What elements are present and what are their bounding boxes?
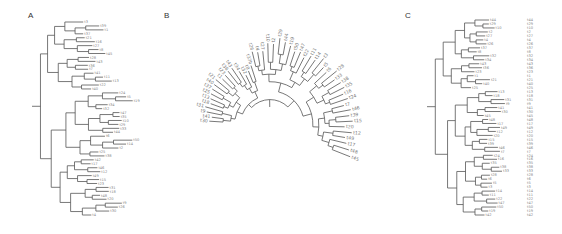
tip-label: t6 (106, 134, 110, 138)
tip-label: t16 (498, 157, 505, 161)
tip-label: t40 (483, 82, 490, 86)
tip-label: t7 (345, 101, 351, 107)
tip-label: t25 (472, 86, 478, 90)
tip-label: t39 (350, 112, 358, 118)
tip-label: t27 (93, 44, 99, 48)
tip-label: t40 (92, 87, 99, 91)
tip-label: t22 (100, 83, 106, 87)
tip-label: t8 (478, 50, 482, 54)
tip-label: t21 (491, 78, 497, 82)
tip-label: t36 (483, 66, 490, 70)
figure-canvas: A B C t3t39t1t37t21t16t27t8t45t28t43t36t… (0, 0, 562, 234)
tip-label: t7 (501, 150, 505, 154)
tip-label: t17 (347, 141, 356, 148)
tip-label: t28 (336, 63, 345, 72)
tip-label: t29 (277, 29, 283, 37)
tip-label: t9 (506, 102, 510, 106)
tip-label: t42 (486, 213, 492, 217)
tip-label: t27 (260, 42, 266, 50)
tip-label: t1 (104, 28, 108, 32)
tip-label: t23 (98, 182, 104, 186)
tip-label: t17 (92, 162, 98, 166)
tip-label: t49 (93, 174, 100, 178)
panel-b-fan-tree: t30t41t9t31t18t13t25t37t40t21t1t23t36t43… (196, 29, 362, 163)
phylogenetic-tree-figure: A B C t3t39t1t37t21t16t27t8t45t28t43t36t… (0, 0, 562, 234)
panel-a-label: A (28, 11, 34, 20)
panel-c-label: C (405, 11, 411, 20)
tip-label: t38 (105, 154, 112, 158)
tip-label: t26 (119, 205, 126, 209)
tip-label: t33 (120, 127, 126, 131)
tip-label: t5 (493, 181, 497, 185)
panel-a-tree: t3t39t1t37t21t16t27t8t45t28t43t36t7t41t1… (32, 20, 140, 217)
tip-label: t42 (527, 213, 533, 217)
tip-label: t50 (497, 205, 504, 209)
tip-label: t5 (127, 95, 131, 99)
tip-label: t39 (488, 142, 495, 146)
tip-label: t24 (119, 91, 126, 95)
tip-label: t11 (490, 193, 496, 197)
tip-label: t20 (346, 124, 354, 129)
tip-label: t14 (496, 189, 503, 193)
tip-label: t19 (134, 99, 141, 103)
tip-label: t20 (108, 197, 115, 201)
tip-label: t50 (133, 138, 140, 142)
tip-label: t14 (127, 142, 134, 146)
tip-label: t15 (354, 118, 362, 123)
tip-label: t26 (248, 42, 255, 51)
tip-label: t11 (104, 75, 110, 79)
tip-label: t3 (489, 185, 493, 189)
panel-b-label: B (164, 11, 169, 20)
tip-label: t35 (491, 161, 497, 165)
tip-label: t6 (326, 66, 333, 73)
tip-label: t12 (101, 170, 107, 174)
tip-label: t30 (110, 209, 117, 213)
tip-label: t32 (103, 107, 109, 111)
tip-label: t13 (113, 79, 119, 83)
tip-label: t21 (86, 36, 92, 40)
tip-label: t10 (496, 26, 503, 30)
tip-label: t44 (114, 130, 121, 134)
tip-label: t37 (481, 46, 487, 50)
tip-label: t4 (254, 46, 260, 52)
tip-label: t45 (351, 155, 360, 163)
tip-label: t18 (110, 190, 117, 194)
tip-label: t24 (348, 93, 357, 100)
tip-label: t20 (494, 134, 501, 138)
tip-label: t8 (100, 48, 104, 52)
tip-label: t30 (502, 110, 509, 114)
tip-label: t3 (84, 20, 88, 24)
tip-label: t45 (106, 52, 112, 56)
tip-label: t10 (265, 34, 270, 42)
tip-label: t7 (89, 67, 93, 71)
panel-c-tree: t44t29t10t2t27t4t26t37t8t32t34t43t36t23t… (427, 18, 534, 217)
tip-label: t6 (488, 177, 492, 181)
tip-label: t46 (352, 105, 361, 111)
tip-label: t34 (109, 103, 116, 107)
tip-label: t26 (487, 42, 494, 46)
tip-label: t1 (475, 74, 479, 78)
tip-label: t48 (489, 118, 496, 122)
tip-label: t37b (245, 53, 253, 65)
tip-label: t43 (96, 60, 102, 64)
tip-label: t34 (485, 58, 492, 62)
tip-label: t3 (322, 52, 329, 59)
tip-label: t12 (353, 130, 361, 136)
tip-label: t4 (92, 213, 96, 217)
tip-label: t34 (233, 62, 241, 71)
tip-label: t41 (202, 113, 210, 119)
tip-label: t41 (95, 71, 101, 75)
tip-label: t2 (119, 146, 123, 150)
tip-label: t2 (271, 38, 276, 43)
tip-label: t18 (494, 94, 501, 98)
tip-label: t33 (503, 169, 509, 173)
tip-label: t48 (350, 148, 359, 155)
tip-label: t49 (346, 135, 354, 141)
